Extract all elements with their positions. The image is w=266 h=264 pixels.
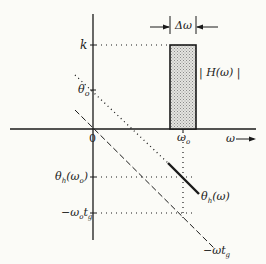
origin-label: 0 bbox=[89, 133, 96, 144]
phase-label: θh(ω) bbox=[201, 191, 230, 205]
horizontal-axis-label: ω bbox=[226, 133, 235, 144]
tick-label-k: k bbox=[80, 39, 87, 51]
tick-label-theta-h-omega-o: θh(ωo) bbox=[55, 171, 88, 185]
tick-label-omega-o: ωo bbox=[177, 132, 190, 146]
tick-label-theta-o: θo bbox=[78, 84, 89, 98]
bandwidth-label: Δω bbox=[175, 20, 192, 31]
magnitude-rect bbox=[170, 45, 196, 129]
magnitude-label: | H(ω) | bbox=[199, 67, 241, 78]
linear-phase-line bbox=[75, 110, 215, 249]
linear-phase-label: −ωtg bbox=[203, 245, 230, 259]
tick-label-neg-omega-o-tg: −ωotg bbox=[61, 207, 92, 221]
